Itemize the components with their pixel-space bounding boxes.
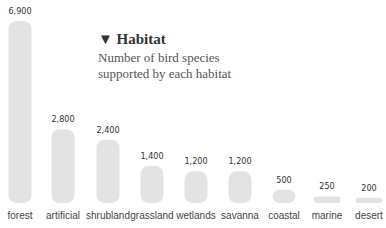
chart-title: ▼ Habitat (98, 30, 248, 48)
bar-coastal (273, 190, 296, 203)
value-label-desert: 200 (361, 183, 376, 193)
value-label-marine: 250 (319, 181, 334, 191)
chart-title-block: ▼ Habitat Number of bird species support… (98, 30, 248, 82)
bar-forest (9, 21, 32, 203)
category-label-shrubland: shrubland (86, 210, 130, 221)
value-label-coastal: 500 (276, 175, 291, 185)
bar-marine (314, 196, 341, 203)
category-label-grassland: grassland (130, 210, 173, 221)
bar-grassland (141, 166, 164, 203)
category-label-desert: desert (355, 210, 383, 221)
category-label-marine: marine (312, 210, 343, 221)
category-label-forest: forest (7, 210, 32, 221)
category-label-artificial: artificial (46, 210, 80, 221)
category-label-wetlands: wetlands (175, 210, 215, 221)
bar-shrubland (97, 140, 120, 203)
bar-wetlands (185, 171, 208, 203)
bar-desert (356, 198, 383, 203)
value-label-shrubland: 2,400 (96, 125, 119, 135)
category-label-savanna: savanna (221, 210, 259, 221)
value-label-forest: 6,900 (8, 6, 31, 16)
category-label-coastal: coastal (268, 210, 300, 221)
bar-savanna (229, 171, 252, 203)
chart-subtitle: Number of bird species supported by each… (98, 50, 248, 82)
bar-artificial (52, 129, 75, 203)
value-label-wetlands: 1,200 (184, 156, 207, 166)
value-label-savanna: 1,200 (228, 156, 251, 166)
value-label-grassland: 1,400 (140, 151, 163, 161)
value-label-artificial: 2,800 (51, 114, 74, 124)
